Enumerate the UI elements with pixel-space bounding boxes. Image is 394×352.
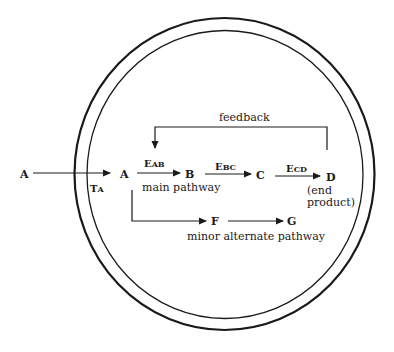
enzyme-eab-label: EAB (144, 158, 165, 169)
node-g: G (287, 215, 296, 228)
node-f: F (211, 215, 219, 228)
node-c: C (256, 169, 265, 182)
metabolic-pathway-diagram: A A B C D F G TA EAB EBC ECD feedback ma… (0, 0, 394, 352)
enzyme-ebc-label: EBC (215, 161, 236, 172)
node-a-outside: A (19, 168, 29, 181)
transporter-label: TA (90, 183, 104, 194)
minor-pathway-label: minor alternate pathway (187, 230, 326, 243)
enzyme-ecd-label: ECD (286, 163, 307, 174)
node-b: B (185, 168, 194, 181)
end-product-label-line2: product) (307, 196, 355, 209)
main-pathway-label: main pathway (142, 181, 221, 194)
node-a-inside: A (119, 168, 129, 181)
node-d: D (326, 171, 336, 184)
branch-arrow-a-to-f (132, 190, 206, 221)
feedback-arrow (155, 127, 327, 150)
feedback-label: feedback (219, 111, 270, 124)
